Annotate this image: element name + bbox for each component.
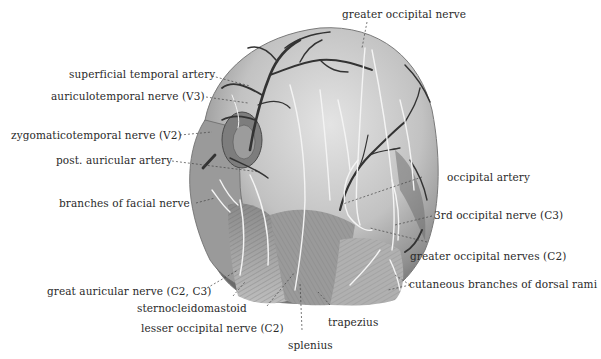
label-post-auricular-artery: post. auricular artery [56,155,172,166]
label-auriculotemporal-nerve: auriculotemporal nerve (V3) [51,91,205,102]
label-splenius: splenius [288,340,333,351]
label-superficial-temporal-artery: superficial temporal artery [69,69,215,80]
label-third-occipital-nerve: 3rd occipital nerve (C3) [434,210,563,221]
anatomy-figure: greater occipital nerve superficial temp… [0,0,601,359]
label-lesser-occipital-nerve: lesser occipital nerve (C2) [141,323,284,334]
label-great-auricular-nerve: great auricular nerve (C2, C3) [47,286,212,297]
label-greater-occipital-nerve: greater occipital nerve [342,9,466,20]
label-zygomaticotemporal-nerve: zygomaticotemporal nerve (V2) [11,130,182,141]
label-trapezius: trapezius [328,317,378,328]
label-branches-facial-nerve: branches of facial nerve [59,198,190,209]
label-sternocleidomastoid: sternocleidomastoid [137,303,247,314]
label-occipital-artery: occipital artery [447,172,530,183]
label-greater-occipital-nerves: greater occipital nerves (C2) [410,251,566,262]
label-cutaneous-branches: cutaneous branches of dorsal rami [409,279,597,290]
